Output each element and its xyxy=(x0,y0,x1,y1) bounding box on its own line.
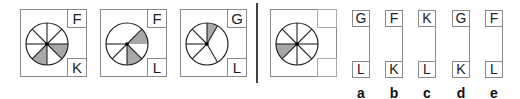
bottom-letter-box: L xyxy=(227,58,247,77)
option-bottom-letter: L xyxy=(418,61,436,78)
option-top-letter: K xyxy=(418,10,436,27)
option-label-d[interactable]: d xyxy=(452,85,470,99)
option-label-c[interactable]: c xyxy=(418,85,436,99)
option-b[interactable]: F K xyxy=(385,10,403,78)
connector-line xyxy=(435,27,436,61)
shaded-sector xyxy=(127,29,148,44)
option-top-letter: F xyxy=(485,10,503,27)
option-top-letter: G xyxy=(452,10,470,27)
option-d[interactable]: G K xyxy=(452,10,470,78)
empty-bottom-letter-box xyxy=(317,58,337,77)
shaded-sector xyxy=(276,44,297,59)
connector-line xyxy=(502,27,503,61)
bottom-letter-box: L xyxy=(147,58,167,77)
question-panel xyxy=(270,9,337,77)
top-letter-box: G xyxy=(227,9,247,28)
sequence-panel-3: G L xyxy=(180,9,247,77)
option-a[interactable]: G L xyxy=(352,10,370,78)
option-label-b[interactable]: b xyxy=(385,85,403,99)
bottom-letter-box: K xyxy=(67,58,87,77)
option-bottom-letter: L xyxy=(485,61,503,78)
sequence-panel-1: F K xyxy=(20,9,87,77)
shaded-sector xyxy=(32,44,47,65)
option-bottom-letter: K xyxy=(385,61,403,78)
option-e[interactable]: F L xyxy=(485,10,503,78)
connector-line xyxy=(469,27,470,61)
divider xyxy=(256,3,258,83)
sector-wheel-question xyxy=(274,21,320,67)
shaded-sector xyxy=(47,44,68,59)
empty-top-letter-box xyxy=(317,9,337,28)
sector-wheel-1 xyxy=(24,21,70,67)
sector-wheel-2 xyxy=(104,21,150,67)
sequence-panel-2: F L xyxy=(100,9,167,77)
shaded-sector xyxy=(127,44,142,65)
option-label-a[interactable]: a xyxy=(352,85,370,99)
connector-line xyxy=(402,27,403,61)
top-letter-box: F xyxy=(147,9,167,28)
connector-line xyxy=(369,27,370,61)
option-top-letter: F xyxy=(385,10,403,27)
option-c[interactable]: K L xyxy=(418,10,436,78)
option-bottom-letter: L xyxy=(352,61,370,78)
option-top-letter: G xyxy=(352,10,370,27)
option-label-e[interactable]: e xyxy=(485,85,503,99)
top-letter-box: F xyxy=(67,9,87,28)
option-bottom-letter: K xyxy=(452,61,470,78)
sector-wheel-3 xyxy=(184,21,230,67)
